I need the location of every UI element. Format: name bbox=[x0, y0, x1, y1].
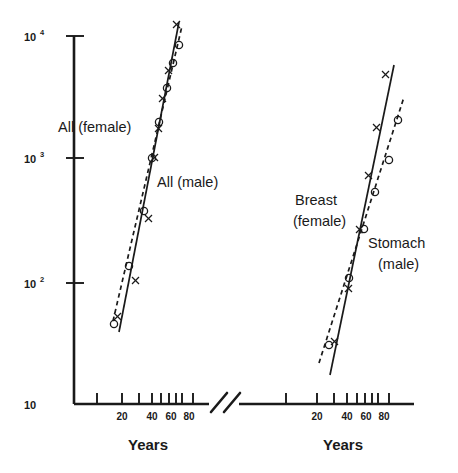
y-tick-label-10000-exponent: 4 bbox=[40, 28, 45, 37]
data-point-marker bbox=[114, 313, 121, 320]
y-tick-label-10: 10 bbox=[24, 399, 36, 411]
data-point-marker bbox=[360, 225, 367, 232]
x-axis-right bbox=[239, 393, 414, 404]
data-point-marker bbox=[110, 320, 117, 327]
data-point-marker bbox=[140, 207, 147, 214]
series-annotation-breast-female: (female) bbox=[293, 213, 346, 229]
y-tick-label-100: 10 bbox=[24, 278, 36, 290]
x-tick-labels-right: 20 40 60 80 bbox=[311, 411, 390, 422]
data-point-marker bbox=[371, 188, 378, 195]
y-tick-labels: 10 4 10 3 10 2 10 bbox=[24, 28, 45, 411]
y-tick-label-100-exponent: 2 bbox=[40, 275, 44, 284]
fit-line-stomach-male bbox=[319, 97, 404, 363]
data-point-marker bbox=[373, 124, 380, 131]
axis-break-symbol bbox=[211, 393, 240, 412]
x-tick-label-right-80: 80 bbox=[378, 411, 390, 422]
y-tick-label-1000: 10 bbox=[24, 153, 36, 165]
x-tick-label-left-40: 40 bbox=[146, 411, 158, 422]
x-axis-left bbox=[74, 393, 209, 404]
series-stomach-male bbox=[319, 97, 404, 363]
series-annotation-stomach: Stomach bbox=[368, 235, 425, 251]
x-tick-label-right-60: 60 bbox=[360, 411, 372, 422]
chart-canvas: 10 4 10 3 10 2 10 20 40 60 80 bbox=[0, 0, 458, 473]
data-point-marker bbox=[382, 71, 389, 78]
x-tick-label-left-60: 60 bbox=[165, 411, 177, 422]
data-markers-stomach-male bbox=[325, 116, 401, 348]
series-annotation-all-female: All (female) bbox=[58, 119, 131, 135]
data-point-marker bbox=[175, 41, 182, 48]
x-tick-label-left-20: 20 bbox=[116, 411, 128, 422]
x-axis-title-left: Years bbox=[128, 436, 168, 453]
x-tick-label-right-20: 20 bbox=[311, 411, 323, 422]
data-point-marker bbox=[132, 277, 139, 284]
series-annotation-breast: Breast bbox=[295, 192, 337, 208]
y-axis bbox=[66, 36, 84, 404]
x-tick-labels-left: 20 40 60 80 bbox=[116, 411, 195, 422]
y-tick-label-10000: 10 bbox=[24, 31, 36, 43]
series-annotation-stomach-male: (male) bbox=[378, 256, 419, 272]
chart-figure: 10 4 10 3 10 2 10 20 40 60 80 bbox=[0, 0, 458, 473]
data-point-marker bbox=[385, 156, 392, 163]
series-annotation-all-male: All (male) bbox=[157, 174, 218, 190]
data-point-marker bbox=[145, 215, 152, 222]
y-tick-label-1000-exponent: 3 bbox=[40, 150, 44, 159]
x-tick-label-left-80: 80 bbox=[183, 411, 195, 422]
x-axis-title-right: Years bbox=[323, 436, 363, 453]
data-markers-breast-female bbox=[331, 71, 389, 345]
x-tick-label-right-40: 40 bbox=[341, 411, 353, 422]
